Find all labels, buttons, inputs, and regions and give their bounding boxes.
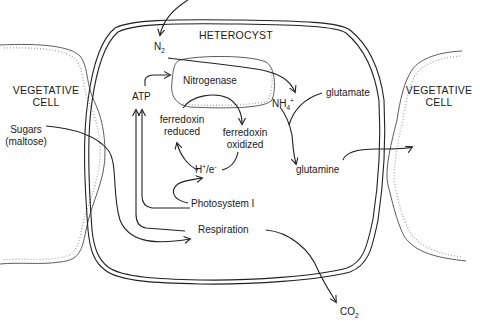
atp-to-nitrogenase-arrow [145,75,170,86]
heterocyst-wall [85,20,385,284]
respiration-to-co2-arrow [266,230,336,302]
heterocyst-label: HETEROCYST [199,29,273,41]
n2-label: N2 [154,41,165,53]
glutamate-label: glutamate [326,87,370,99]
glutamine-label: glutamine [296,164,339,176]
co2-label: CO2 [340,306,359,318]
right-vegetative-cell-label: VEGETATIVE CELL [398,84,480,108]
nh4-label: NH4+ [272,98,294,110]
glutamine-export-arrow [343,147,412,160]
n2-inflow-arrow [160,0,188,35]
diagram-graphics [0,0,480,321]
sugars-to-respiration-arrow [46,126,190,242]
respiration-label: Respiration [198,224,249,236]
nitrogenase-label: Nitrogenase [183,75,237,87]
sugars-label: Sugars (maltose) [2,124,50,148]
h-e-label: H+/e- [195,164,217,176]
right-vegetative-cell-outline [387,51,466,261]
atp-label: ATP [132,91,151,103]
ferredoxin-oxidized-label: ferredoxin oxidized [215,127,275,151]
heterocyst-diagram: HETEROCYST VEGETATIVE CELL VEGETATIVE CE… [0,0,480,321]
photosystem-label: Photosystem I [191,198,254,210]
nh4-to-glutamine-arrow [280,107,296,164]
ferredoxin-reduced-label: ferredoxin reduced [152,114,212,138]
ferredoxin-to-h-arrow [222,152,238,170]
left-vegetative-cell-label: VEGETATIVE CELL [0,84,92,108]
